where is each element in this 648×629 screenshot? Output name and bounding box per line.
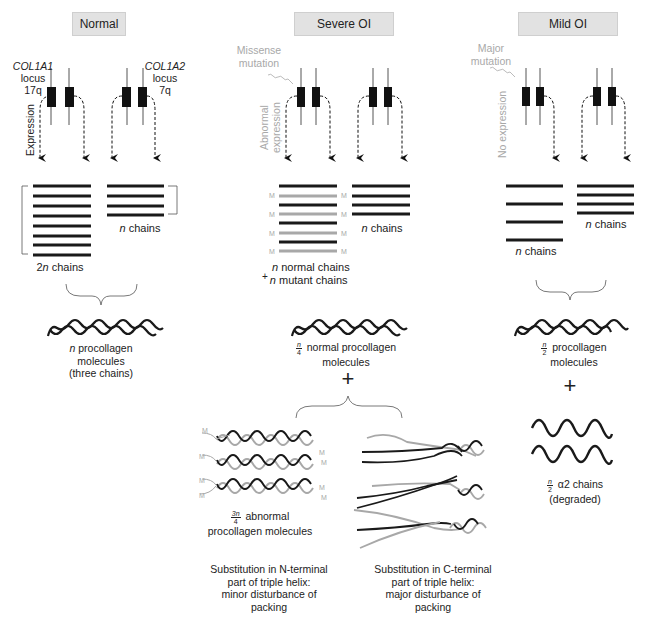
mutant-marker: M [198,451,206,464]
mutant-marker: M [340,246,348,259]
abnormal-procollagen-label: 3n4 abnormal procollagen molecules [200,510,320,538]
c-terminal-helices-icon [354,435,486,548]
col1a2-gene-label: COL1A2 [144,60,186,73]
helix-mild-icon [515,320,628,336]
diagram-graphics [0,0,648,629]
expression-label: Expression [24,104,36,156]
degraded-chains-label: n2 α2 chains (degraded) [520,478,630,506]
n-terminal-description: Substitution in N-terminal part of tripl… [196,563,342,613]
mild-plus-sign: + [560,375,580,397]
missense-squiggle [268,74,293,84]
major-mutation-squiggle [490,67,515,77]
mutant-marker: M [340,228,348,241]
abnormal-expression-label: Abnormalexpression [258,102,282,153]
severe-normal-procollagen-label: n4 normal procollagen molecules [286,341,406,369]
c-terminal-description: Substitution in C-terminal part of tripl… [360,563,506,613]
severe-chain-mix-label: n normal chains +n mutant chains [262,261,362,287]
severe-plus-sign: + [338,368,358,390]
mutant-marker: M [268,228,276,241]
mutant-marker: M [268,190,276,203]
col1a1-gene-label: COL1A1 [12,60,54,73]
mutant-marker: M [268,246,276,259]
degraded-chains-icon [532,420,612,464]
no-expression-label: No expression [496,91,508,158]
normal-brace [66,284,137,305]
col1a2-chromosome-label: 7q [144,84,186,97]
normal-2n-chains-label: 2n chains [30,261,90,274]
mutant-marker: M [320,457,328,470]
missense-mutation-label: Missensemutation [232,44,286,69]
helix-severe-normal-icon [292,320,407,336]
severe-brace [296,396,402,418]
mutant-marker: M [198,475,206,488]
major-mutation-label: Majormutation [468,42,514,67]
mutant-marker: M [340,209,348,222]
mutant-marker: M [201,425,209,438]
mutant-marker: M [340,190,348,203]
normal-procollagen-label: n procollagen molecules (three chains) [48,342,154,380]
n-terminal-helices-icon [200,431,313,494]
mild-brace [536,280,606,300]
col1a1-chromosome-label: 17q [12,84,54,97]
severe-n-chains-label: n chains [352,222,412,235]
mutant-marker: M [320,492,328,505]
helix-normal-icon [48,320,163,336]
col1a2-locus-label: locus [144,72,186,85]
normal-n-chains-label: n chains [110,222,170,235]
mutant-marker: M [268,209,276,222]
mutant-marker: M [198,490,206,503]
mild-procollagen-label: n2 procollagen molecules [524,341,624,369]
mild-left-n-chains-label: n chains [506,245,566,258]
col1a1-locus-label: locus [12,72,54,85]
mild-right-n-chains-label: n chains [576,218,636,231]
